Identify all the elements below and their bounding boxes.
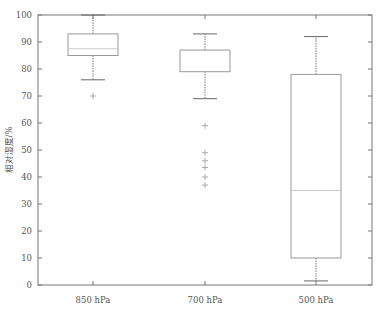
y-tick-label: 80 [21,64,32,74]
y-tick-label: 20 [21,226,32,236]
y-tick-label: 60 [21,118,32,128]
y-tick-label: 90 [21,37,32,47]
box-plot-chart: 0102030405060708090100相对湿度/%850 hPa700 h… [0,0,378,313]
box [291,74,341,258]
x-tick-label: 500 hPa [299,295,334,305]
y-tick-label: 100 [16,10,32,20]
y-tick-label: 40 [21,172,32,182]
x-tick-label: 850 hPa [76,295,111,305]
box [68,34,118,56]
y-tick-label: 30 [21,199,32,209]
y-tick-label: 10 [21,253,32,263]
x-tick-label: 700 hPa [188,295,223,305]
y-axis-label: 相对湿度/% [4,127,14,174]
y-tick-label: 0 [27,280,32,290]
y-tick-label: 50 [21,145,32,155]
y-tick-label: 70 [21,91,32,101]
box [180,50,230,72]
